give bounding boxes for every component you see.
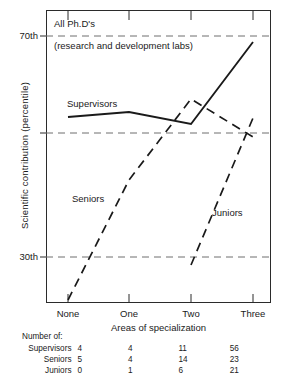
series-label-supervisors: Supervisors — [67, 98, 117, 109]
cell-supervisors-none: 4 — [78, 343, 128, 354]
annotation-all-phds: All Ph.D's — [54, 18, 95, 29]
table-row: Seniors 5 4 14 23 — [0, 354, 281, 365]
cell-supervisors-two: 11 — [178, 343, 229, 354]
table-row: Juniors 0 1 6 21 — [0, 365, 281, 376]
row-label-seniors: Seniors — [0, 354, 78, 365]
table-row: Supervisors 4 4 11 56 — [0, 343, 281, 354]
cell-supervisors-three: 56 — [230, 343, 281, 354]
cell-supervisors-one: 4 — [128, 343, 178, 354]
cell-seniors-one: 4 — [128, 354, 178, 365]
cell-seniors-three: 23 — [230, 354, 281, 365]
annotation-research-labs: (research and development labs) — [54, 40, 193, 51]
figure-container: Scientific contribution (percentile) 70t… — [0, 0, 281, 391]
series-label-seniors: Seniors — [72, 193, 104, 204]
cell-juniors-three: 21 — [230, 365, 281, 376]
x-tick-label-three: Three — [223, 308, 281, 319]
cell-juniors-none: 0 — [78, 365, 128, 376]
row-label-juniors: Juniors — [0, 365, 78, 376]
cell-juniors-two: 6 — [178, 365, 229, 376]
counts-table: Supervisors 4 4 11 56 Seniors 5 4 14 23 … — [0, 343, 281, 376]
y-axis-title: Scientific contribution (percentile) — [19, 46, 30, 266]
y-tick-label-70th: 70th — [8, 30, 38, 41]
y-tick-label-30th: 30th — [8, 251, 38, 262]
row-label-supervisors: Supervisors — [0, 343, 78, 354]
x-tick-label-none: None — [38, 308, 98, 319]
x-tick-label-two: Two — [161, 308, 221, 319]
plot-area — [46, 10, 271, 303]
x-axis-title: Areas of specialization — [46, 322, 271, 333]
cell-seniors-two: 14 — [178, 354, 229, 365]
cell-juniors-one: 1 — [128, 365, 178, 376]
cell-seniors-none: 5 — [78, 354, 128, 365]
x-tick-label-one: One — [99, 308, 159, 319]
table-caption: Number of: — [22, 332, 63, 341]
series-label-juniors: Juniors — [212, 207, 243, 218]
